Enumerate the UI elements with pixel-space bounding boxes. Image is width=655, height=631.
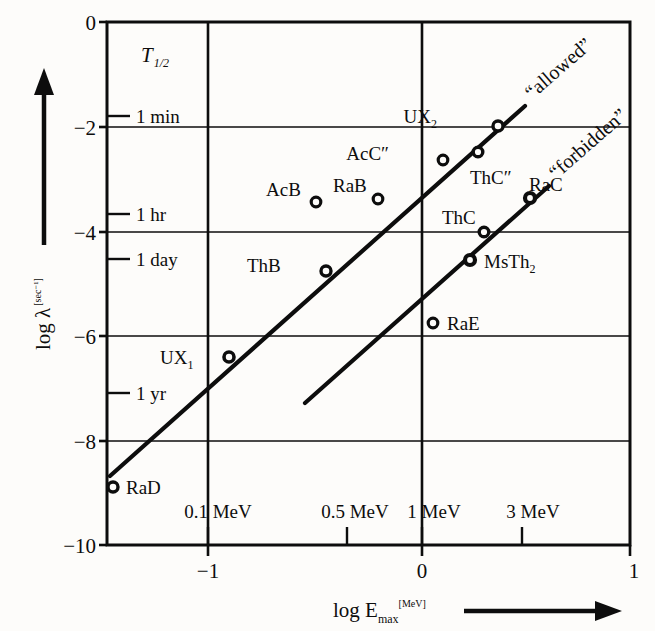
xtick-label-1: 1 [629,559,640,583]
annotation-allowed: “allowed” [520,33,596,103]
y-axis-title-sup: [sec⁻¹] [32,278,43,305]
datalabel-UX1-main: UX [160,347,188,368]
trendline-forbidden [305,186,549,403]
x-axis-title-sup: [MeV] [399,598,426,609]
x-axis-title-sub: max [378,612,399,626]
halflife-annotation: T1/2 [141,43,169,70]
datalabel-UX2-main: UX [404,106,432,127]
datalabel-ThB: ThB [247,255,281,276]
datapoint-UX2[interactable] [493,121,503,131]
sargent-diagram-figure: 0 −2 −4 −6 −8 −10 −1 0 1 1 min 1 hr 1 da… [0,0,655,631]
halflife-sub: 1/2 [154,56,169,70]
datapoint-ThB[interactable] [321,266,331,276]
ylabel-1day: 1 day [136,249,178,270]
ytick-label-minus10: −10 [63,534,96,558]
ytick-label-minus8: −8 [74,430,96,454]
plot-frame [107,22,630,545]
xlabel-mev-3: 3 MeV [506,501,560,522]
ylabel-1hr: 1 hr [136,204,167,225]
datapoint-UX1[interactable] [224,352,234,362]
x-axis-title-main: log E [333,598,378,622]
y-axis-arrow [34,68,54,245]
annotation-forbidden: “forbidden” [544,104,631,183]
ytick-label-minus4: −4 [74,221,97,245]
datapoint-MsTh2[interactable] [465,255,475,265]
xlabel-mev-0p5: 0.5 MeV [321,501,389,522]
datapoint-RaE[interactable] [428,318,438,328]
xlabel-mev-0p1: 0.1 MeV [184,501,252,522]
x-axis-major-ticks [208,545,630,556]
xtick-label-0: 0 [417,559,428,583]
datapoint-RaB[interactable] [373,194,383,204]
datalabel-MsTh2: MsTh2 [484,251,535,276]
datalabel-RaE: RaE [447,313,480,334]
y-axis-title: log λ[sec⁻¹] [31,278,55,350]
y-axis-title-main: log λ [31,307,55,350]
ytick-label-minus2: −2 [74,116,96,140]
x-axis-title: log Emax[MeV] [333,598,426,626]
datalabel-UX1: UX1 [160,347,193,372]
vertical-gridlines [208,22,422,545]
x-axis-arrow [464,601,622,621]
ylabel-1min: 1 min [136,106,180,127]
datalabel-AcB: AcB [266,179,301,200]
datalabel-MsTh2-sub: 2 [529,262,535,276]
y-axis-halflife-ticks [107,116,130,393]
xtick-label-minus1: −1 [197,559,219,583]
datalabel-UX2-sub: 2 [431,117,437,131]
datalabel-RaD: RaD [126,477,161,498]
datalabel-AcC2: AcC″ [346,143,389,164]
chart-svg: 0 −2 −4 −6 −8 −10 −1 0 1 1 min 1 hr 1 da… [0,0,655,631]
xlabel-mev-1: 1 MeV [407,501,461,522]
datapoint-ThC[interactable] [479,227,489,237]
halflife-T: T [141,43,154,67]
datapoint-AcC2[interactable] [438,155,448,165]
datalabel-RaC: RaC [529,174,563,195]
ylabel-1yr: 1 yr [136,383,167,404]
x-axis-mev-ticks [208,527,522,545]
datalabel-ThC2: ThC″ [470,167,512,188]
trendline-allowed [110,106,525,476]
datalabel-MsTh2-main: MsTh [484,251,530,272]
datalabel-RaB: RaB [333,175,367,196]
ytick-label-0: 0 [86,11,97,35]
datapoint-ThC2[interactable] [473,147,483,157]
datalabel-ThC: ThC [442,207,476,228]
datalabel-UX1-sub: 1 [187,358,193,372]
datapoint-AcB[interactable] [311,197,321,207]
ytick-label-minus6: −6 [74,325,96,349]
datapoint-RaD[interactable] [108,482,118,492]
